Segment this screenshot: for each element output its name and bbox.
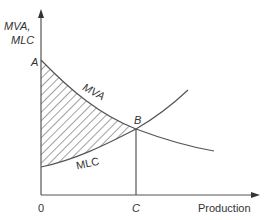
x-axis-label: Production [198, 202, 251, 214]
point-b-label: B [134, 114, 141, 126]
point-c-label: C [132, 202, 140, 214]
y-axis-label-line1: MVA, [4, 20, 30, 32]
y-axis-label-line2: MLC [11, 34, 34, 46]
shaded-surplus-area [41, 55, 141, 170]
origin-label: 0 [38, 202, 44, 214]
x-axis-arrow-icon [251, 192, 260, 198]
y-axis-arrow-icon [38, 9, 44, 18]
mva-mlc-diagram: MVA, MLC A B C 0 Production MVA MLC [0, 0, 269, 220]
point-a-label: A [30, 56, 38, 68]
mlc-curve-label: MLC [75, 155, 100, 172]
